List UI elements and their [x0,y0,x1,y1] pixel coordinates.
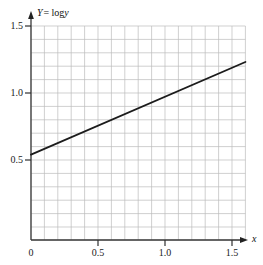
y-axis-ticks [25,26,31,160]
plot-canvas [0,0,263,265]
y-axis-arrow-icon [28,11,34,19]
y-axis-title: Y = logy [37,8,69,18]
y-tick-label-0-5: 0.5 [2,155,23,165]
y-tick-label-1-0: 1.0 [2,88,23,98]
y-axis-title-var: y [64,7,68,18]
chart-figure: 1.5 1.0 0.5 0 0.5 1.0 1.5 Y = logy x [0,0,263,265]
x-tick-label-1-0: 1.0 [150,248,180,258]
x-tick-label-0-5: 0.5 [83,248,113,258]
y-axis-title-expr: log [52,7,65,18]
x-axis [31,237,248,243]
x-axis-title: x [252,234,256,244]
x-tick-label-1-5: 1.5 [217,248,247,258]
y-axis [28,11,34,240]
origin-label: 0 [21,248,41,258]
x-axis-ticks [98,240,232,246]
y-tick-label-1-5: 1.5 [2,21,23,31]
y-axis-title-equals-sign: = [43,7,49,18]
x-axis-arrow-icon [240,237,248,243]
